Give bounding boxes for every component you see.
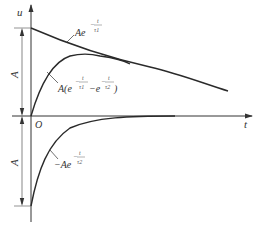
diagram-canvas: u t O A A Ae − t τ1 A(e − t τ1 −e − t τ2… — [0, 0, 266, 229]
exponential-waveform-diagram: u t O A A Ae − t τ1 A(e − t τ1 −e − t τ2… — [0, 0, 266, 229]
formula-decay-tau1: Ae − t τ1 — [74, 18, 102, 38]
leader-line-difference — [47, 72, 58, 83]
svg-text:): ) — [113, 83, 118, 95]
svg-text:t: t — [97, 18, 99, 24]
decay-curve-tau1 — [31, 28, 228, 91]
negative-decay-curve-tau2 — [31, 116, 175, 206]
y-axis-label: u — [17, 6, 23, 18]
upper-amplitude-label: A — [8, 71, 20, 79]
svg-text:−e: −e — [89, 83, 101, 94]
svg-text:A(e: A(e — [57, 83, 72, 95]
x-axis-label: t — [244, 118, 248, 130]
formula-neg-decay-tau2: −Ae − t τ2 — [54, 150, 85, 170]
arrow-down-icon — [20, 198, 24, 206]
arrow-up-icon — [20, 28, 24, 36]
svg-text:τ1: τ1 — [94, 27, 99, 33]
leader-line-tau2 — [50, 150, 58, 159]
upper-amplitude-dimension — [20, 28, 24, 116]
svg-text:t: t — [79, 150, 81, 156]
svg-text:t: t — [108, 75, 110, 81]
formula-difference: A(e − t τ1 −e − t τ2 ) — [57, 75, 118, 95]
origin-label: O — [35, 119, 42, 130]
lower-amplitude-label: A — [8, 159, 20, 167]
svg-text:−Ae: −Ae — [54, 159, 72, 170]
arrow-down-icon — [20, 108, 24, 116]
arrow-up-icon — [20, 116, 24, 124]
lower-amplitude-dimension — [20, 116, 24, 206]
svg-text:τ1: τ1 — [79, 84, 84, 90]
leader-line-tau1 — [66, 35, 74, 43]
svg-text:Ae: Ae — [74, 27, 86, 38]
svg-text:t: t — [82, 75, 84, 81]
svg-text:τ2: τ2 — [77, 159, 82, 165]
svg-text:τ2: τ2 — [105, 84, 110, 90]
